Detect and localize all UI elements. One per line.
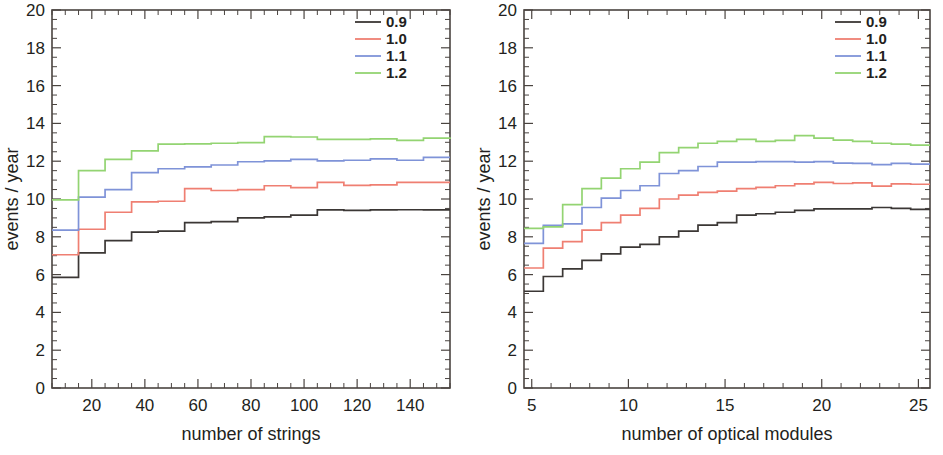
chart-panel-right: 02468101214161820510152025number of opti… — [470, 0, 943, 455]
y-tick-label: 8 — [508, 228, 517, 247]
y-tick-label: 12 — [498, 152, 517, 171]
x-tick-label: 25 — [909, 396, 928, 415]
y-tick-label: 6 — [36, 266, 45, 285]
y-tick-label: 20 — [26, 1, 45, 20]
x-tick-label: 60 — [188, 396, 207, 415]
x-axis-title: number of optical modules — [621, 424, 832, 444]
y-tick-label: 18 — [498, 39, 517, 58]
legend-label-0-9: 0.9 — [866, 13, 887, 30]
x-tick-label: 40 — [135, 396, 154, 415]
y-tick-label: 4 — [36, 303, 45, 322]
y-tick-label: 16 — [26, 77, 45, 96]
plot-area-left: 0246810121416182020406080100120140number… — [0, 0, 470, 455]
legend-label-1-0: 1.0 — [866, 30, 887, 47]
y-tick-label: 10 — [498, 190, 517, 209]
x-tick-label: 100 — [290, 396, 318, 415]
legend-label-0-9: 0.9 — [386, 13, 407, 30]
series-line-0-9 — [52, 210, 450, 278]
x-tick-label: 15 — [716, 396, 735, 415]
y-axis-title: events / year — [2, 147, 22, 250]
y-tick-label: 20 — [498, 1, 517, 20]
x-tick-label: 20 — [82, 396, 101, 415]
y-tick-label: 4 — [508, 303, 517, 322]
plot-area-right: 02468101214161820510152025number of opti… — [470, 0, 943, 455]
y-tick-label: 18 — [26, 39, 45, 58]
legend-label-1-1: 1.1 — [386, 47, 407, 64]
series-line-1-2 — [52, 137, 450, 200]
x-tick-label: 20 — [812, 396, 831, 415]
x-tick-label: 10 — [619, 396, 638, 415]
x-tick-label: 80 — [242, 396, 261, 415]
chart-panel-left: 0246810121416182020406080100120140number… — [0, 0, 470, 455]
legend-label-1-1: 1.1 — [866, 47, 887, 64]
y-tick-label: 8 — [36, 228, 45, 247]
x-tick-label: 5 — [527, 396, 536, 415]
y-tick-label: 2 — [36, 341, 45, 360]
legend-label-1-0: 1.0 — [386, 30, 407, 47]
y-tick-label: 14 — [26, 114, 45, 133]
series-line-1-0 — [524, 182, 930, 268]
x-axis-title: number of strings — [181, 424, 320, 444]
x-tick-label: 140 — [396, 396, 424, 415]
y-tick-label: 10 — [26, 190, 45, 209]
y-axis-title: events / year — [474, 147, 494, 250]
figure-root: 0246810121416182020406080100120140number… — [0, 0, 943, 455]
x-tick-label: 120 — [343, 396, 371, 415]
y-tick-label: 6 — [508, 266, 517, 285]
y-tick-label: 0 — [36, 379, 45, 398]
series-line-1-2 — [524, 136, 930, 229]
y-tick-label: 12 — [26, 152, 45, 171]
y-tick-label: 2 — [508, 341, 517, 360]
y-tick-label: 0 — [508, 379, 517, 398]
series-line-0-9 — [524, 208, 930, 292]
y-tick-label: 14 — [498, 114, 517, 133]
legend-label-1-2: 1.2 — [866, 64, 887, 81]
y-tick-label: 16 — [498, 77, 517, 96]
series-line-1-1 — [52, 157, 450, 230]
series-line-1-1 — [524, 162, 930, 244]
legend-label-1-2: 1.2 — [386, 64, 407, 81]
